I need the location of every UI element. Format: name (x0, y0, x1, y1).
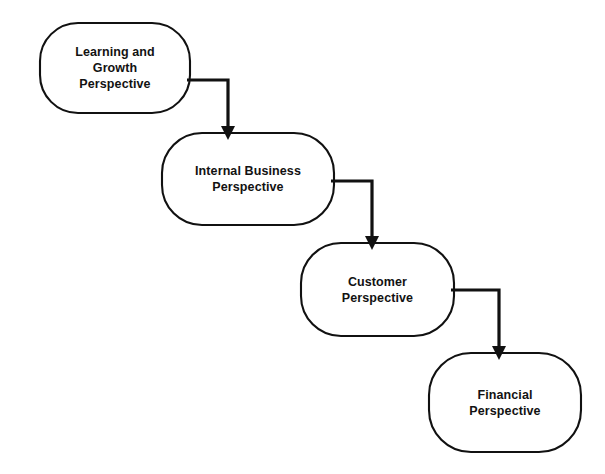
node-shape-financial[interactable] (429, 353, 581, 452)
connector-customer-to-financial (451, 290, 506, 360)
connector-line-internal-to-customer (331, 181, 372, 237)
diagram-canvas: Learning and Growth Perspective Internal… (0, 0, 605, 474)
connector-line-customer-to-financial (451, 290, 499, 347)
connector-line-learning-to-internal (187, 80, 228, 127)
node-shape-internal-business[interactable] (162, 133, 334, 225)
connector-learning-to-internal (187, 80, 235, 140)
connector-internal-to-customer (331, 181, 379, 250)
node-shape-customer[interactable] (301, 243, 454, 336)
node-shape-learning-and-growth[interactable] (40, 23, 190, 113)
diagram-vector-layer (0, 0, 605, 474)
